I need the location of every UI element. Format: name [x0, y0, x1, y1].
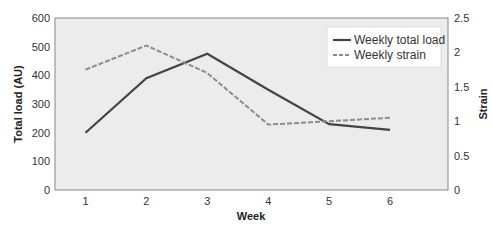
x-tick-label: 2 — [143, 195, 149, 207]
x-tick-label: 1 — [82, 195, 88, 207]
legend-label-strain: Weekly strain — [354, 48, 426, 62]
y-tick-label: 600 — [32, 12, 50, 24]
y-tick-label: 400 — [32, 69, 50, 81]
y-tick-label: 300 — [32, 98, 50, 110]
y2-tick-label: 1.5 — [454, 81, 469, 93]
x-axis-ticks: 123456 — [82, 195, 393, 207]
x-tick-label: 4 — [265, 195, 271, 207]
x-axis-title: Week — [237, 210, 266, 222]
y-tick-label: 200 — [32, 127, 50, 139]
y-tick-label: 100 — [32, 155, 50, 167]
x-tick-label: 5 — [326, 195, 332, 207]
x-tick-label: 6 — [387, 195, 393, 207]
y-tick-label: 500 — [32, 41, 50, 53]
y2-tick-label: 1 — [454, 115, 460, 127]
left-axis-ticks: 0100200300400500600 — [32, 12, 50, 196]
y2-tick-label: 0.5 — [454, 150, 469, 162]
right-axis-ticks: 00.511.522.5 — [454, 12, 469, 196]
x-tick-label: 3 — [204, 195, 210, 207]
dual-axis-line-chart: 0100200300400500600 00.511.522.5 123456 … — [0, 0, 493, 232]
y2-tick-label: 0 — [454, 184, 460, 196]
y2-axis-title: Strain — [477, 88, 489, 119]
y2-tick-label: 2 — [454, 46, 460, 58]
legend: Weekly total load Weekly strain — [327, 27, 445, 67]
legend-label-load: Weekly total load — [354, 33, 445, 47]
y2-tick-label: 2.5 — [454, 12, 469, 24]
y-axis-title: Total load (AU) — [12, 65, 24, 143]
y-tick-label: 0 — [44, 184, 50, 196]
